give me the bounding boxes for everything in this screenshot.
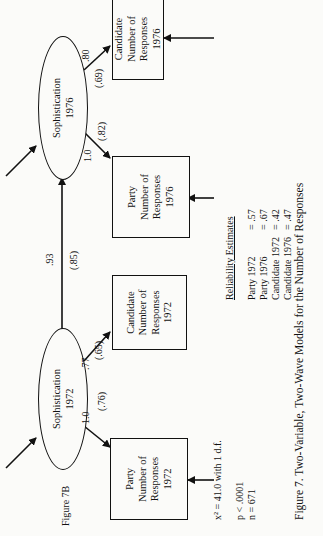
reliability-row: Candidate 1972= .42 xyxy=(270,209,282,300)
coef-soph1972-cand1972: .77 xyxy=(80,358,91,371)
node-sophistication-1972: Sophistication 1972 xyxy=(38,328,88,470)
figure-page: Figure 7B Sophistication 1972 Sophistica… xyxy=(0,0,323,536)
figure-caption: Figure 7. Two-Variable, Two-Wave Models … xyxy=(293,183,305,520)
std-soph1972-party1972: (.76) xyxy=(96,392,107,411)
std-soph1976-cand1976: (.69) xyxy=(93,69,104,88)
std-soph1972-cand1972: (.65) xyxy=(93,341,104,360)
coef-soph1976-party1976: 1.0 xyxy=(82,150,93,163)
node-party-1976: Party Number of Responses 1976 xyxy=(112,156,190,238)
reliability-title: Reliability Estimates xyxy=(224,209,236,300)
coef-soph1972-party1972: 1.0 xyxy=(80,412,91,425)
coef-soph1972-soph1976: .93 xyxy=(44,254,55,267)
coef-soph1976-cand1976: .80 xyxy=(80,50,91,63)
model-stats: x² = 41.0 with 1 d.f. p < .0001 n = 671 xyxy=(212,440,258,520)
node-party-1972: Party Number of Responses 1972 xyxy=(110,438,188,520)
figure-label: Figure 7B xyxy=(60,486,71,526)
chi-square: x² = 41.0 with 1 d.f. xyxy=(212,440,224,520)
std-soph1976-party1976: (.82) xyxy=(96,122,107,141)
std-soph1972-soph1976: (.85) xyxy=(68,251,79,270)
reliability-row: Party 1976= .67 xyxy=(258,209,270,300)
node-candidate-1976: Candidate Number of Responses 1976 xyxy=(112,0,164,80)
reliability-estimates: Reliability Estimates Party 1972= .57 Pa… xyxy=(224,209,294,300)
reliability-row: Party 1972= .57 xyxy=(246,209,258,300)
sample-size: n = 671 xyxy=(246,440,258,520)
node-candidate-1972: Candidate Number of Responses 1972 xyxy=(112,275,187,350)
p-value: p < .0001 xyxy=(234,440,246,520)
